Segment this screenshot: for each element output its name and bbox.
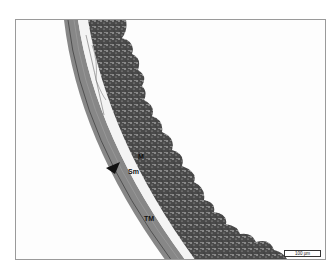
tissue-section xyxy=(16,20,326,260)
label-mucosa: M xyxy=(138,153,144,160)
label-tunica-muscularis: TM xyxy=(144,215,154,222)
arrowhead-icon xyxy=(106,162,120,174)
label-submucosa: Sm xyxy=(128,168,139,175)
micrograph-frame: M Sm TM 100 µm xyxy=(15,19,326,260)
scale-bar: 100 µm xyxy=(284,250,321,257)
